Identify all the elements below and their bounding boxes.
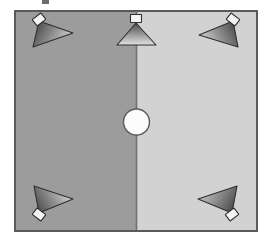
diagram-canvas xyxy=(0,0,269,242)
cropped-top-marker xyxy=(42,0,49,4)
sensor-top-center-mount xyxy=(131,15,142,23)
center-circle[interactable] xyxy=(124,109,150,135)
floor-plan-diagram xyxy=(0,0,269,242)
